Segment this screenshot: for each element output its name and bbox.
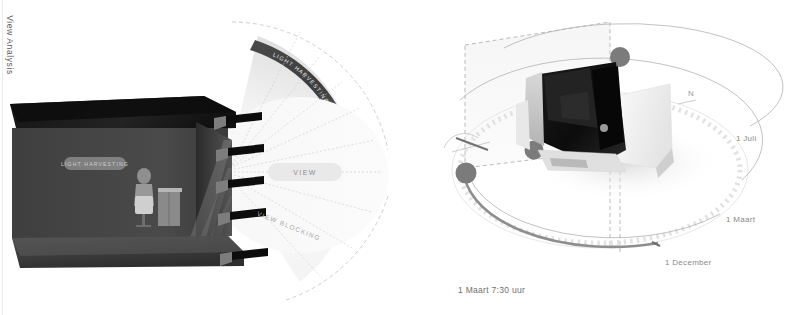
model-highlight-dot	[600, 124, 608, 132]
sun-path-label-juli: 1 Juli	[736, 134, 756, 143]
sunlight-caption: 1 Maart 7:30 uur	[458, 285, 525, 295]
light-harvesting-label: LIGHT HARVESTING	[61, 161, 129, 167]
view-analysis-panel: View Analysis	[0, 0, 420, 315]
desk-furniture	[158, 188, 182, 226]
sun-marker-december	[456, 163, 477, 184]
model-dark-facet-c	[560, 92, 590, 120]
sun-path-label-maart: 1 Maart	[726, 215, 756, 224]
view-label: VIEW	[293, 169, 317, 176]
view-analysis-drawing: LIGHT HARVESTING	[0, 0, 420, 315]
model-left-fin-outer	[516, 100, 530, 150]
diagram-page: View Analysis	[0, 0, 791, 315]
model-light-wing	[616, 84, 672, 168]
sun-path-label-december: 1 December	[665, 258, 712, 267]
north-label: N	[688, 89, 694, 98]
sunlight-analysis-drawing: N 1 Juli 1 Maart 1 December	[420, 0, 791, 315]
sunlight-analysis-panel: Sunlight Analysis	[420, 0, 791, 315]
interior-back-wall	[12, 128, 228, 238]
north-pointer-line	[678, 100, 696, 104]
